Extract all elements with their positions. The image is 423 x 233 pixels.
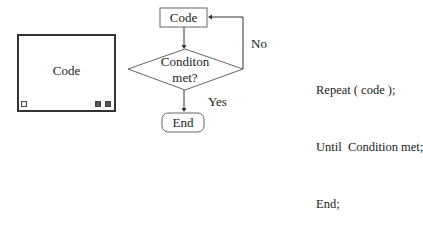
pseudocode-line: End; bbox=[316, 195, 423, 214]
process-label: Code bbox=[160, 10, 207, 26]
no-label: No bbox=[251, 36, 267, 52]
decision-label-line1: Conditon bbox=[150, 54, 220, 70]
terminal-label: End bbox=[162, 115, 204, 131]
pseudocode-line: Until Condition met; bbox=[316, 138, 423, 157]
decision-label-line2: met? bbox=[150, 70, 220, 86]
loop-indicator-icon bbox=[21, 101, 27, 107]
pseudocode: Repeat ( code ); Until Condition met; En… bbox=[316, 43, 423, 233]
cloud-label: Code bbox=[17, 63, 116, 79]
yes-label: Yes bbox=[208, 94, 227, 110]
settings-icon bbox=[105, 101, 111, 107]
add-icon bbox=[95, 101, 101, 107]
pseudocode-line: Repeat ( code ); bbox=[316, 81, 423, 100]
